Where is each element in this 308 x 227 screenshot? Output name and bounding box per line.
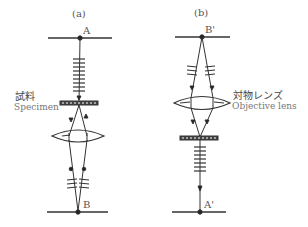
panel-a-label: (a) bbox=[72, 8, 86, 19]
point-b-label: B bbox=[83, 199, 90, 210]
specimen-label-jp: 試料 bbox=[15, 88, 35, 103]
objective-lens-label-en: Objective lens bbox=[232, 101, 297, 111]
panel-b-label: (b) bbox=[194, 7, 208, 18]
point-b-prime-label: B' bbox=[205, 24, 215, 35]
point-a-prime-label: A' bbox=[204, 199, 214, 210]
panel-a-drawing bbox=[47, 36, 112, 214]
point-a-label: A bbox=[83, 25, 90, 36]
specimen-label-en: Specimen bbox=[14, 102, 59, 112]
optics-diagram bbox=[0, 0, 308, 227]
objective-lens-label-jp: 対物レンズ bbox=[233, 87, 283, 102]
panel-b-drawing bbox=[172, 35, 230, 214]
